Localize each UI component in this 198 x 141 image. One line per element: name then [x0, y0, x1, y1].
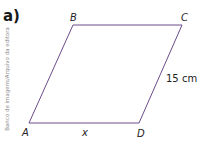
vertex-label-a: A: [21, 127, 29, 138]
vertex-label-d: D: [137, 128, 145, 139]
side-cd-measure: 15 cm: [166, 73, 197, 84]
vertex-label-c: C: [181, 12, 188, 23]
side-ad-measure: x: [81, 127, 88, 138]
parallelogram-figure: A B C D x 15 cm: [0, 0, 198, 141]
parallelogram-shape: [29, 25, 182, 123]
vertex-label-b: B: [70, 12, 77, 23]
